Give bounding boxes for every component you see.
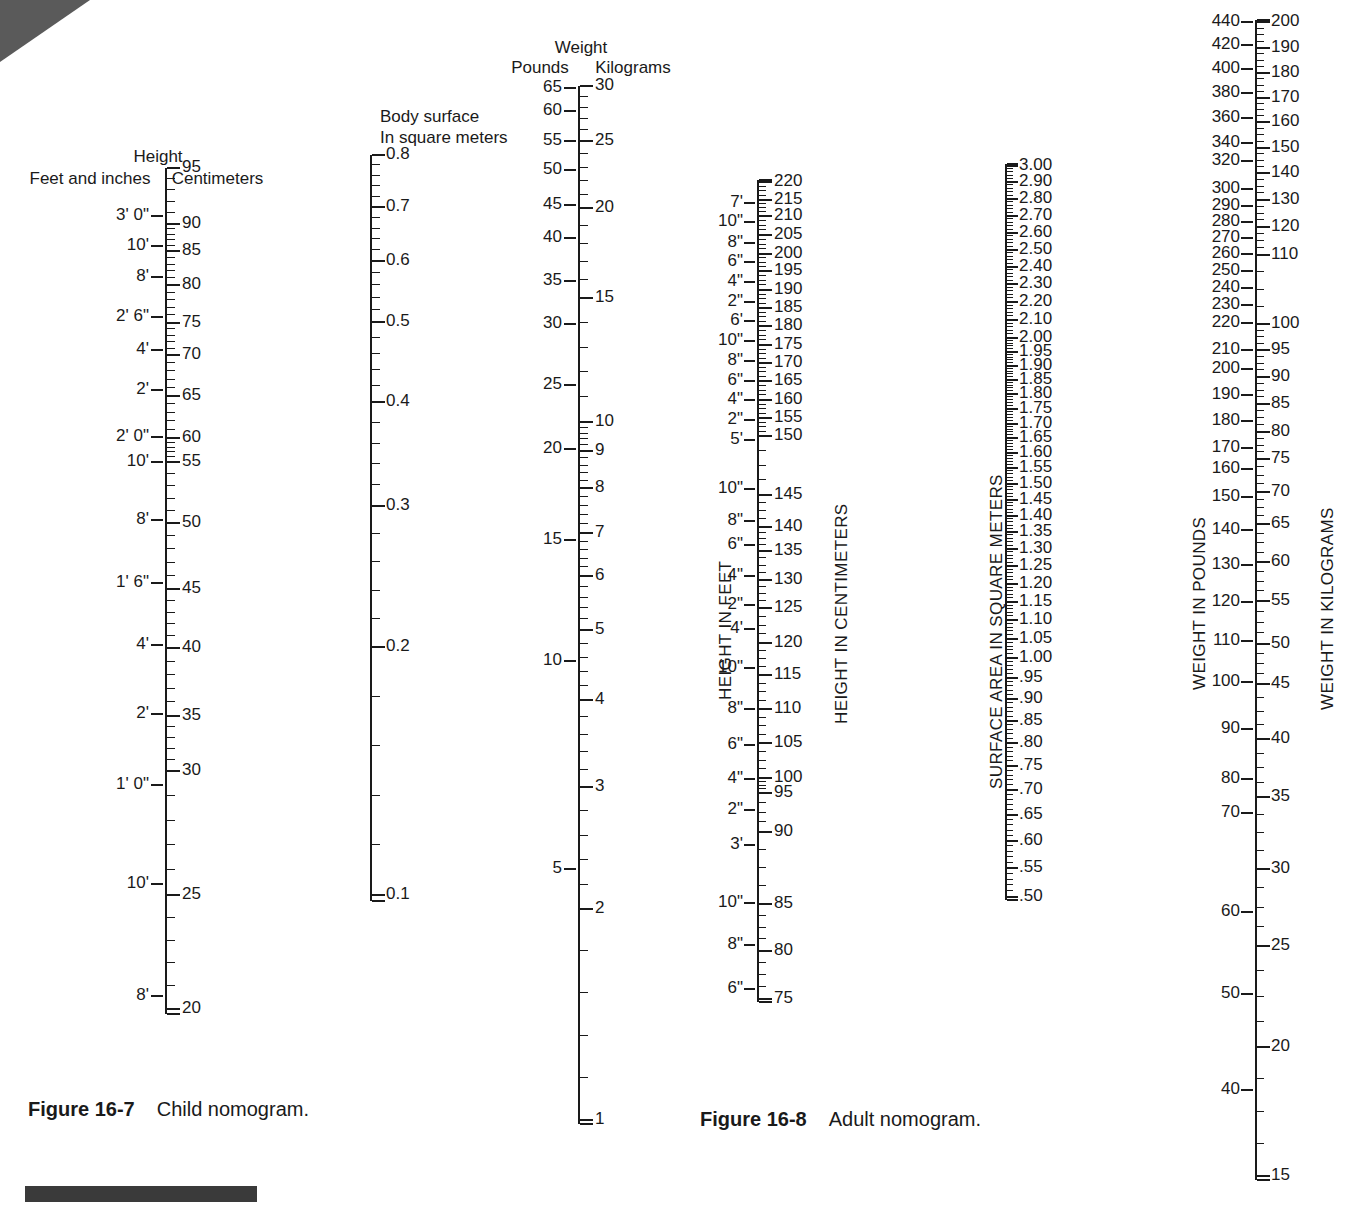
scale-tick — [1241, 394, 1253, 396]
scale-tick — [372, 894, 385, 896]
scale-tick — [759, 431, 766, 432]
adult-weight-kg-axis-title: WEIGHT IN KILOGRAMS — [1318, 507, 1338, 710]
scale-tick — [372, 618, 380, 619]
scale-tick — [1007, 455, 1013, 456]
scale-tick — [759, 658, 766, 659]
scale-tick — [580, 261, 588, 262]
scale-tick — [759, 408, 766, 409]
scale-tick — [1007, 168, 1013, 169]
scale-tick — [580, 859, 588, 860]
scale-label: 250 — [1212, 261, 1240, 278]
scale-tick — [580, 465, 588, 466]
scale-tick — [580, 992, 588, 993]
adult-weight-lb-axis-title: WEIGHT IN POUNDS — [1190, 517, 1210, 690]
scale-tick — [580, 541, 588, 542]
scale-label: 8' — [136, 986, 149, 1003]
scale-label: 2.60 — [1019, 223, 1052, 240]
scale-tick — [759, 195, 766, 196]
scale-tick — [1007, 477, 1013, 478]
scale-label: 10' — [127, 452, 149, 469]
scale-tick — [759, 234, 772, 236]
scale-tick — [1257, 343, 1264, 344]
scale-label: 55 — [543, 131, 562, 148]
scale-tick — [580, 835, 588, 836]
scale-tick — [759, 362, 772, 364]
scale-tick — [372, 795, 380, 796]
scale-tick — [1007, 824, 1013, 825]
scale-tick — [744, 419, 755, 421]
scale-tick — [744, 380, 755, 382]
scale-tick — [1007, 711, 1013, 712]
scale-tick — [1007, 467, 1018, 469]
scale-tick — [1007, 528, 1013, 529]
scale-label: 105 — [774, 733, 802, 750]
scale-tick — [372, 443, 380, 444]
scale-tick — [167, 612, 175, 613]
scale-tick — [580, 618, 588, 619]
scale-tick — [167, 250, 180, 252]
scale-tick — [759, 867, 766, 868]
scale-tick — [759, 312, 766, 313]
child-weight-title: Weight — [536, 38, 626, 58]
scale-label: 210 — [774, 206, 802, 223]
scale-tick — [1007, 362, 1013, 363]
scale-tick — [1007, 201, 1013, 202]
scale-tick — [372, 590, 380, 591]
scale-tick — [1007, 333, 1013, 334]
scale-tick — [759, 885, 766, 886]
scale-tick — [1007, 840, 1018, 842]
scale-tick — [759, 385, 766, 386]
scale-label: 0.7 — [386, 197, 410, 214]
scale-tick — [1007, 642, 1013, 643]
scale-label: 50 — [182, 513, 201, 530]
scale-tick — [1007, 505, 1013, 506]
scale-label: 205 — [774, 225, 802, 242]
scale-tick — [1257, 254, 1270, 256]
scale-tick — [759, 802, 766, 803]
scale-label: 200 — [1212, 359, 1240, 376]
scale-tick — [151, 389, 163, 391]
scale-label: .70 — [1019, 780, 1043, 797]
scale-tick — [759, 494, 772, 496]
scale-tick — [1241, 1089, 1253, 1091]
scale-tick — [1007, 319, 1018, 321]
scale-tick — [1257, 147, 1270, 149]
scale-tick — [759, 399, 772, 401]
scale-tick — [1007, 694, 1013, 695]
scale-tick — [151, 519, 163, 521]
scale-tick — [1007, 583, 1018, 585]
scale-label: 0.6 — [386, 251, 410, 268]
scale-tick — [1257, 632, 1264, 633]
scale-label: 3.00 — [1019, 156, 1052, 173]
scale-label: 420 — [1212, 35, 1240, 52]
scale-tick — [372, 385, 380, 386]
scale-label: 210 — [1212, 340, 1240, 357]
scale-tick — [1007, 396, 1013, 397]
scale-tick — [580, 243, 588, 244]
scale-label: 40 — [182, 638, 201, 655]
scale-label: 320 — [1212, 151, 1240, 168]
scale-label: 150 — [1212, 487, 1240, 504]
scale-tick — [580, 549, 588, 550]
scale-tick — [1257, 271, 1264, 272]
scale-label: 190 — [1212, 385, 1240, 402]
scale-tick — [1257, 683, 1270, 685]
scale-tick — [744, 744, 755, 746]
scale-tick — [1257, 753, 1264, 754]
scale-tick — [580, 810, 588, 811]
scale-tick — [759, 717, 766, 718]
scale-label: 5 — [553, 859, 562, 876]
scale-tick — [1241, 368, 1253, 370]
scale-tick — [759, 248, 766, 249]
scale-label: 60 — [1221, 902, 1240, 919]
scale-tick — [580, 140, 593, 142]
scale-tick — [1007, 623, 1013, 624]
scale-tick — [759, 683, 766, 684]
scale-tick — [1007, 373, 1013, 374]
scale-tick — [167, 429, 175, 430]
scale-label: .65 — [1019, 805, 1043, 822]
scale-tick — [1241, 993, 1253, 995]
scale-tick — [372, 175, 380, 176]
scale-tick — [1257, 115, 1264, 116]
scale-label: 50 — [1271, 634, 1290, 651]
